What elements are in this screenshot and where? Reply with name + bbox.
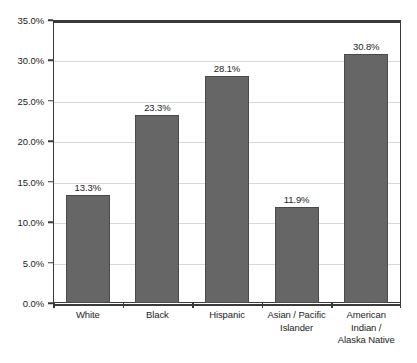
y-axis-tick-label: 5.0% [23,257,44,268]
bar-chart: 0.0%5.0%10.0%15.0%20.0%25.0%30.0%35.0% 1… [0,0,417,363]
x-axis-category-label-line: Alaska Native [323,334,409,347]
x-axis-tick-mark [192,303,194,308]
gridline-35.0 [54,21,400,23]
y-axis-tick-label: 20.0% [18,136,44,147]
x-axis-tick-mark [400,303,402,308]
x-axis-labels: WhiteBlackHispanicAsian / PacificIslande… [53,309,401,363]
x-axis-tick-mark [53,303,55,308]
bar[interactable] [344,54,388,303]
x-axis-category-label-line: American [323,309,409,322]
y-axis-tick-label: 35.0% [18,15,44,26]
bar[interactable] [275,207,319,303]
y-axis-tick-label: 25.0% [18,95,44,106]
bar[interactable] [135,115,179,303]
bar[interactable] [66,195,110,303]
x-axis-tick-mark [123,303,125,308]
x-axis-tick-mark [262,303,264,308]
y-axis-tick-label: 10.0% [18,217,44,228]
y-axis-tick-label: 0.0% [23,298,44,309]
bar[interactable] [205,76,249,303]
x-axis-category-label-line: Indian / [323,322,409,335]
y-axis-tick-label: 15.0% [18,176,44,187]
x-axis-tick-mark [331,303,333,308]
x-axis-category-label: AmericanIndian /Alaska Native [323,309,409,347]
y-axis-tick-label: 30.0% [18,55,44,66]
